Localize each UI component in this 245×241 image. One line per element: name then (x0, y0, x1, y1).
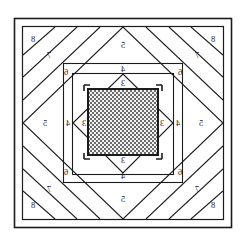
quilt-block-svg: 5 4 3 5 4 3 5 4 3 5 4 3 8 7 6 8 7 6 8 (0, 0, 245, 241)
center-shaded-square (88, 89, 158, 155)
label-corner-br-6: 6 (64, 167, 68, 177)
label-corner-tr-7: 7 (47, 50, 51, 60)
label-corner-bl-7: 7 (195, 184, 199, 194)
label-corner-tl-7: 7 (195, 50, 199, 60)
label-corner-tr-8: 8 (31, 34, 35, 44)
label-left-3: 3 (160, 118, 164, 128)
label-corner-bl-8: 8 (211, 200, 215, 210)
label-corner-tl-6: 6 (178, 67, 182, 77)
label-corner-tl-8: 8 (211, 34, 215, 44)
label-top-3: 3 (121, 78, 125, 88)
label-corner-tr-6: 6 (64, 67, 68, 77)
label-bottom-3: 3 (121, 155, 125, 165)
label-corner-br-7: 7 (47, 184, 51, 194)
label-bottom-5: 5 (121, 194, 125, 204)
quilt-block-diagram: 5 4 3 5 4 3 5 4 3 5 4 3 8 7 6 8 7 6 8 (0, 0, 245, 241)
label-right-3: 3 (82, 118, 86, 128)
label-corner-bl-6: 6 (178, 167, 182, 177)
label-right-5: 5 (43, 118, 47, 128)
label-left-5: 5 (199, 118, 203, 128)
label-corner-br-8: 8 (31, 200, 35, 210)
label-top-5: 5 (121, 40, 125, 50)
